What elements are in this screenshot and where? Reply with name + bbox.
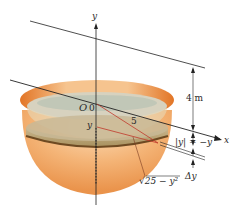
slab-top — [26, 115, 168, 141]
diagram-graphics — [0, 0, 233, 215]
y-axis-label: y — [92, 12, 97, 21]
slice-depth-label: y — [87, 121, 92, 130]
radius-label: 5 — [131, 117, 137, 126]
x-axis-arrow — [214, 135, 222, 141]
abs-y-label: |y| = −y — [175, 138, 212, 147]
x-axis-label: x — [224, 136, 229, 145]
origin-zero-label: 0 — [89, 104, 95, 113]
slice-radius-label: √25 − y² — [139, 177, 178, 186]
liquid-surface-shade — [37, 95, 157, 111]
delta-y-label: Δy — [185, 172, 197, 181]
hemisphere-tank-diagram: y O 0 y 5 4 m x |y| = −y Δy √25 − y² — [0, 0, 233, 215]
height-label: 4 m — [186, 94, 203, 103]
y-axis-arrow — [94, 23, 98, 29]
top-reference-line — [30, 21, 205, 68]
origin-label: O — [79, 103, 87, 113]
